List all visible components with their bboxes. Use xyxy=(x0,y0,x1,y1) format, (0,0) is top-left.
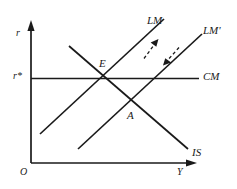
point-label-A: A xyxy=(127,110,134,121)
y-axis-label: r xyxy=(16,28,20,38)
lm-curve-label: LM xyxy=(147,15,162,26)
diagram-canvas xyxy=(0,0,237,189)
lm-prime-curve-label: LM' xyxy=(203,25,221,36)
x-axis-arrowhead xyxy=(186,159,197,166)
is-curve-label: IS xyxy=(192,147,201,158)
y-tick-label-rstar: r* xyxy=(13,71,22,81)
x-axis-label: Y xyxy=(177,167,183,177)
shift-arrow-up-left xyxy=(144,39,159,59)
y-axis-arrowhead xyxy=(27,20,34,31)
axis-group xyxy=(27,20,197,167)
lm-curve xyxy=(40,19,164,134)
isl-lm-figure: r r* O Y LM LM' IS CM E A xyxy=(0,0,237,189)
lm-prime-curve xyxy=(78,34,202,149)
origin-label: O xyxy=(20,167,27,177)
point-label-E: E xyxy=(99,58,106,69)
cm-curve-label: CM xyxy=(203,71,220,82)
is-curve xyxy=(69,46,188,149)
